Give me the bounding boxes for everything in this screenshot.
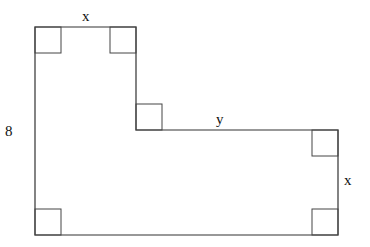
l-shape-outline xyxy=(35,27,338,235)
right-angle-marker-bottom-left xyxy=(35,209,61,235)
right-angle-marker-top-left xyxy=(35,27,61,53)
label-top-side: x xyxy=(82,9,90,24)
right-angle-marker-inner-step xyxy=(136,104,162,130)
right-angle-marker-top-right xyxy=(110,27,136,53)
label-right-side: x xyxy=(344,173,352,188)
l-shape-figure xyxy=(0,0,370,247)
right-angle-marker-right-top xyxy=(312,130,338,156)
label-middle-side: y xyxy=(216,112,224,127)
label-left-side: 8 xyxy=(5,124,13,139)
right-angle-marker-bottom-right xyxy=(312,209,338,235)
